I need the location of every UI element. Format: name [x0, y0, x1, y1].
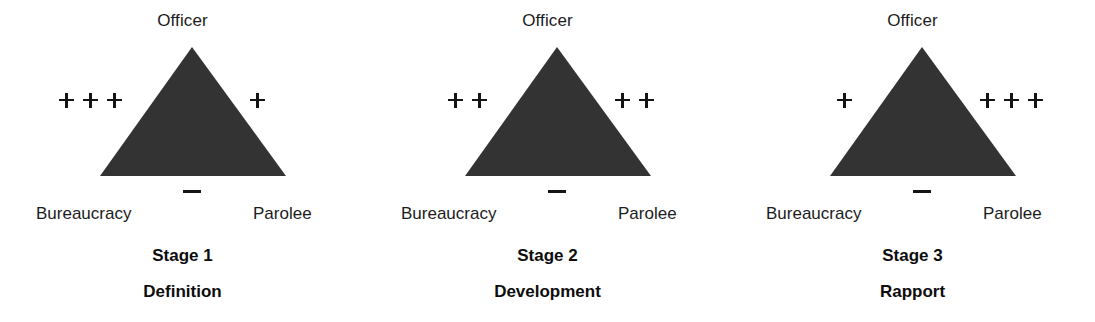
apex-label-officer: Officer: [730, 10, 1095, 31]
plus-icon: [472, 93, 487, 108]
stage-title: Stage 1: [0, 245, 365, 266]
base-label-bureaucracy: Bureaucracy: [36, 203, 131, 224]
base-label-bureaucracy: Bureaucracy: [401, 203, 496, 224]
right-side-valence-marks: [250, 88, 265, 112]
minus-icon: [913, 190, 931, 193]
stage-panel-2: Officer Bureaucracy Parolee Stage 2 Deve…: [365, 0, 730, 322]
stage-panel-1: Officer Bureaucracy Parolee Stage 1 Defi…: [0, 0, 365, 322]
base-label-parolee: Parolee: [618, 203, 677, 224]
plus-icon: [83, 93, 98, 108]
stage-subtitle: Development: [365, 281, 730, 302]
plus-icon: [448, 93, 463, 108]
plus-icon: [250, 93, 265, 108]
apex-label-officer: Officer: [0, 10, 365, 31]
right-side-valence-marks: [615, 88, 654, 112]
plus-icon: [59, 93, 74, 108]
base-label-parolee: Parolee: [253, 203, 312, 224]
stage-title: Stage 3: [730, 245, 1095, 266]
plus-icon: [107, 93, 122, 108]
right-side-valence-marks: [980, 88, 1043, 112]
stage-panel-3: Officer Bureaucracy Parolee Stage 3 Rapp…: [730, 0, 1095, 322]
stage-subtitle: Definition: [0, 281, 365, 302]
plus-icon: [837, 93, 852, 108]
stage-title: Stage 2: [365, 245, 730, 266]
stage-triangles-figure: Officer Bureaucracy Parolee Stage 1 Defi…: [0, 0, 1095, 322]
minus-icon: [183, 190, 201, 193]
plus-icon: [1004, 93, 1019, 108]
minus-icon: [548, 190, 566, 193]
base-label-bureaucracy: Bureaucracy: [766, 203, 861, 224]
plus-icon: [980, 93, 995, 108]
left-side-valence-marks: [59, 88, 122, 112]
left-side-valence-marks: [448, 88, 487, 112]
plus-icon: [615, 93, 630, 108]
base-label-parolee: Parolee: [983, 203, 1042, 224]
apex-label-officer: Officer: [365, 10, 730, 31]
stage-subtitle: Rapport: [730, 281, 1095, 302]
plus-icon: [1028, 93, 1043, 108]
left-side-valence-marks: [837, 88, 852, 112]
plus-icon: [639, 93, 654, 108]
